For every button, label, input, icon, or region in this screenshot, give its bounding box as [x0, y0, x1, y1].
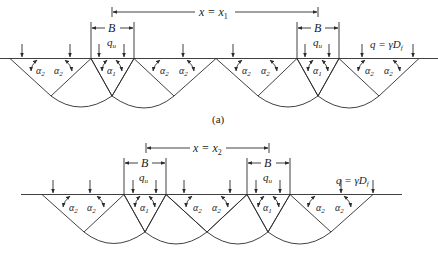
- footing-width-label: B: [264, 156, 272, 170]
- svg-text:α2: α2: [87, 202, 96, 215]
- panel-b: x = x2 B B qu qu q = γDf: [21, 141, 402, 244]
- footing-width-label: B: [141, 156, 149, 170]
- panel-a: x = x1 B B qu qu q = γDf: [0, 5, 438, 126]
- spacing-label: x = x2: [192, 141, 222, 157]
- svg-text:α2: α2: [261, 65, 270, 78]
- angle-arrows: [63, 196, 351, 207]
- load-arrows: [22, 44, 413, 57]
- panel-caption: (a): [212, 113, 225, 126]
- svg-text:α2: α2: [316, 202, 325, 215]
- svg-text:α2: α2: [36, 65, 45, 78]
- surcharge-label: q = γDf: [370, 38, 404, 52]
- svg-text:α2: α2: [69, 202, 78, 215]
- svg-text:α1: α1: [107, 65, 116, 78]
- svg-text:α1: α1: [140, 202, 149, 215]
- svg-text:α2: α2: [160, 65, 169, 78]
- svg-text:α2: α2: [212, 202, 221, 215]
- svg-text:α2: α2: [54, 65, 63, 78]
- bearing-label: qu: [139, 171, 149, 185]
- svg-text:α2: α2: [193, 202, 202, 215]
- footing-width-label: B: [314, 21, 322, 35]
- interfering-footings-diagram: x = x1 B B qu qu q = γDf: [0, 0, 438, 256]
- angle-labels: α2 α2 α1 α2 α2 α1 α2 α2: [69, 202, 344, 215]
- svg-text:α2: α2: [365, 65, 374, 78]
- svg-text:α2: α2: [384, 65, 393, 78]
- svg-text:α2: α2: [335, 202, 344, 215]
- bearing-label: qu: [313, 36, 323, 50]
- load-arrows: [53, 180, 373, 193]
- svg-text:α2: α2: [242, 65, 251, 78]
- bearing-label: qu: [263, 171, 273, 185]
- bearing-label: qu: [107, 36, 117, 50]
- failure-surfaces: [10, 59, 419, 109]
- svg-text:α2: α2: [179, 65, 188, 78]
- svg-text:α1: α1: [263, 202, 272, 215]
- angle-arrows: [31, 60, 400, 71]
- svg-text:α1: α1: [313, 65, 322, 78]
- footing-width-label: B: [108, 21, 116, 35]
- angle-labels: α2 α2 α1 α2 α2 α2 α2 α1 α2 α2: [36, 65, 393, 78]
- spacing-label: x = x1: [198, 5, 228, 21]
